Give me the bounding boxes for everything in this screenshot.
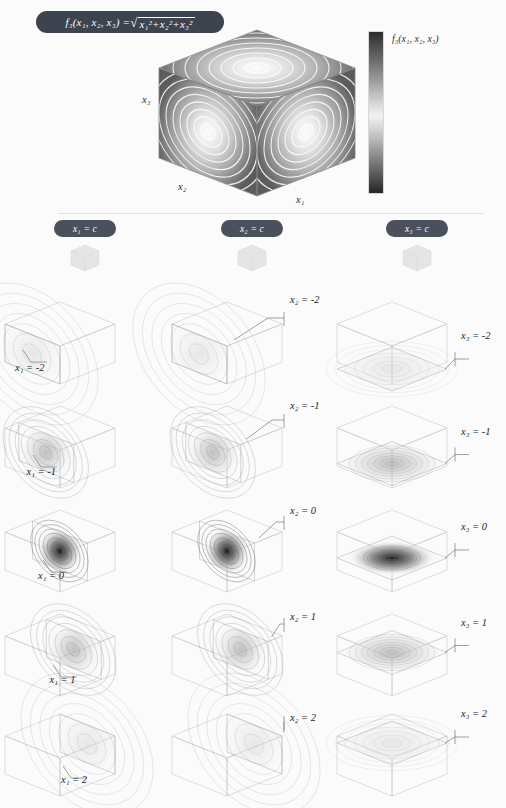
slice-panel-x3-4: x₃ = 2 <box>337 700 503 808</box>
slice-label: x₃ = 1 <box>461 617 487 628</box>
slice-label: x₃ = 0 <box>461 521 487 532</box>
slice-label: x₁ = -1 <box>27 466 56 477</box>
slice-label: x₂ = 1 <box>290 611 316 622</box>
slice-canvas <box>5 700 171 808</box>
slice-label: x₃ = 2 <box>461 708 487 719</box>
slice-label: x₃ = -2 <box>461 330 490 341</box>
slice-panel-x3-2: x₃ = 0 <box>337 496 503 604</box>
hero-axis-x1: x₁ <box>296 194 304 205</box>
colorbar-label: f₃(x₁, x₂, x₃) <box>392 33 439 44</box>
slice-panel-x1-3: x₁ = 1 <box>5 600 171 708</box>
slice-panel-x1-4: x₁ = 2 <box>5 700 171 808</box>
slice-canvas <box>337 392 503 500</box>
hero-axis-x3: x₃ <box>142 94 150 105</box>
mini-cube-icon-x2 <box>235 242 269 276</box>
slice-canvas <box>337 496 503 604</box>
section-divider <box>58 213 484 214</box>
slice-label: x₁ = 0 <box>38 570 64 581</box>
slice-panel-x3-1: x₃ = -1 <box>337 392 503 500</box>
slice-canvas <box>5 600 171 708</box>
slice-panel-x3-0: x₃ = -2 <box>337 288 503 396</box>
column-badge-x1: x₁ = c <box>54 220 116 237</box>
slice-panel-x2-1: x₂ = -1 <box>172 392 338 500</box>
slice-label: x₂ = -1 <box>290 400 319 411</box>
slice-canvas <box>337 288 503 396</box>
slice-label: x₂ = 2 <box>290 712 316 723</box>
formula-lhs: f₃(x₁, x₂, x₃) = <box>65 16 130 28</box>
slice-label: x₁ = -2 <box>15 362 44 373</box>
slice-panel-x1-0: x₁ = -2 <box>5 288 171 396</box>
column-badge-x3: x₃ = c <box>386 220 448 237</box>
slice-panel-x2-0: x₂ = -2 <box>172 288 338 396</box>
slice-panel-x1-1: x₁ = -1 <box>5 392 171 500</box>
mini-cube-icon-x1 <box>68 242 102 276</box>
slice-label: x₃ = -1 <box>461 426 490 437</box>
hero-cube-svg <box>150 24 365 204</box>
slice-label: x₁ = 2 <box>61 774 87 785</box>
radical-icon: √ <box>130 15 137 31</box>
colorbar-gradient <box>368 31 384 194</box>
hero-axis-x2: x₂ <box>178 181 186 192</box>
slice-label: x₂ = -2 <box>290 294 319 305</box>
slice-canvas <box>5 288 171 396</box>
slice-label: x₂ = 0 <box>290 505 316 516</box>
slice-panel-x2-4: x₂ = 2 <box>172 700 338 808</box>
column-header-x3: x₃ = c <box>337 220 497 276</box>
column-header-x1: x₁ = c <box>5 220 165 276</box>
slice-panel-x2-2: x₂ = 0 <box>172 496 338 604</box>
isosurface-cube: x₃ x₂ x₁ <box>150 24 365 204</box>
column-badge-x2: x₂ = c <box>221 220 283 237</box>
colorbar: f₃(x₁, x₂, x₃) <box>368 31 384 194</box>
slice-panel-x3-3: x₃ = 1 <box>337 600 503 708</box>
slice-canvas <box>5 392 171 500</box>
slice-panel-x2-3: x₂ = 1 <box>172 600 338 708</box>
slice-panel-x1-2: x₁ = 0 <box>5 496 171 604</box>
mini-cube-icon-x3 <box>400 242 434 276</box>
slice-canvas <box>5 496 171 604</box>
column-header-x2: x₂ = c <box>172 220 332 276</box>
